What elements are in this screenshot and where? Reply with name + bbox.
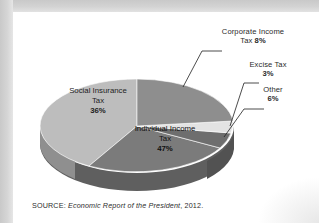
- callout-other-line1: Other: [263, 85, 283, 94]
- pie-chart: Corporate Income Tax 8% Excise Tax 3% Ot…: [13, 12, 319, 190]
- source-title: Economic Report of the President: [68, 201, 180, 210]
- pie-label-social-insurance-tax-value: 36%: [90, 106, 106, 115]
- source-note: SOURCE: Economic Report of the President…: [32, 201, 203, 210]
- figure-card: Corporate Income Tax 8% Excise Tax 3% Ot…: [13, 12, 319, 223]
- pie-label-individual-income-tax-line1: Individual Income: [135, 124, 196, 133]
- source-prefix: SOURCE:: [32, 201, 66, 210]
- pie-slice-corporate-income-tax[interactable]: [137, 79, 233, 126]
- callout-excise-tax-line1: Excise Tax: [249, 60, 286, 69]
- pie-label-individual-income-tax-value: 47%: [157, 144, 173, 153]
- callout-other: Other 6%: [249, 85, 297, 104]
- callout-corporate-income-tax-line1: Corporate Income: [222, 27, 284, 36]
- source-suffix: , 2012.: [180, 201, 203, 210]
- callout-corporate-income-tax-line2: Tax: [240, 36, 252, 45]
- pie-label-social-insurance-tax-line2: Tax: [92, 96, 104, 105]
- callout-excise-tax: Excise Tax 3%: [236, 60, 300, 79]
- callout-corporate-income-tax-value: 8%: [255, 36, 266, 45]
- callout-excise-tax-value: 3%: [262, 69, 273, 78]
- page-frame-top-edge: [0, 0, 319, 12]
- pie-label-social-insurance-tax-line1: Social Insurance: [69, 86, 127, 95]
- page-frame-left-edge: [0, 0, 13, 223]
- callout-other-value: 6%: [267, 94, 278, 103]
- pie-label-individual-income-tax-line2: Tax: [159, 134, 171, 143]
- pie-label-individual-income-tax: Individual Income Tax 47%: [117, 124, 213, 154]
- pie-label-social-insurance-tax: Social Insurance Tax 36%: [50, 86, 146, 116]
- callout-corporate-income-tax: Corporate Income Tax 8%: [211, 27, 295, 46]
- leader-line-corporate-income-tax: [183, 51, 222, 87]
- figure-page: Corporate Income Tax 8% Excise Tax 3% Ot…: [0, 0, 319, 223]
